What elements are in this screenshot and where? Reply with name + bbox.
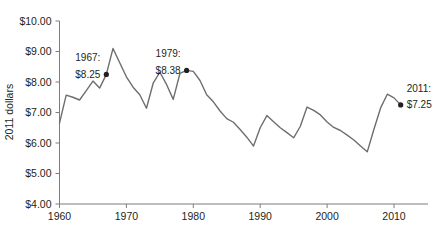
annotation-marker-1979 (184, 68, 189, 73)
y-tick-label: $8.00 (25, 76, 51, 88)
data-series-group (60, 48, 401, 151)
annotation-value-1967: $8.25 (75, 69, 100, 80)
x-tick-label: 1960 (48, 210, 72, 222)
x-tick-label: 2000 (315, 210, 339, 222)
x-tick-label: 1990 (249, 210, 273, 222)
y-axis: $4.00$5.00$6.00$7.00$8.00$9.00$10.00 (19, 15, 59, 210)
x-axis: 196019701980199020002010 (48, 204, 428, 222)
y-tick-label: $9.00 (25, 45, 51, 57)
x-tick-label: 2010 (382, 210, 406, 222)
annotation-marker-1967 (104, 72, 109, 77)
annotation-year-1967: 1967: (75, 52, 100, 63)
annotation-year-1979: 1979: (156, 48, 181, 59)
chart-container: $4.00$5.00$6.00$7.00$8.00$9.00$10.00 196… (0, 0, 438, 240)
annotation-value-1979: $8.38 (156, 65, 181, 76)
y-tick-label: $4.00 (25, 198, 51, 210)
y-tick-label: $7.00 (25, 106, 51, 118)
minimum-wage-line-chart: $4.00$5.00$6.00$7.00$8.00$9.00$10.00 196… (0, 0, 438, 240)
y-tick-label: $5.00 (25, 167, 51, 179)
data-line-minimum-wage (60, 48, 401, 151)
annotation-value-2011: $7.25 (407, 99, 432, 110)
y-tick-label: $6.00 (25, 137, 51, 149)
y-tick-label: $10.00 (19, 15, 51, 27)
y-axis-title: 2011 dollars (3, 84, 15, 140)
x-tick-label: 1980 (182, 210, 206, 222)
x-tick-label: 1970 (115, 210, 139, 222)
annotation-marker-2011 (398, 102, 403, 107)
annotation-year-2011: 2011: (407, 83, 431, 94)
